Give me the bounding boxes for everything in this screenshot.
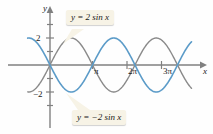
- x-axis-label: x: [203, 66, 207, 76]
- callout-bottom-tail: [66, 93, 90, 110]
- callout-2sinx: y = 2 sin x: [66, 10, 114, 25]
- y-axis-arrowhead: [47, 6, 54, 13]
- callout-tails-group: [63, 29, 90, 110]
- y-tick-label-positive-2: 2: [36, 33, 41, 43]
- x-tick-label-3pi: 3π: [163, 66, 172, 76]
- callout-neg2sinx: y = −2 sin x: [72, 110, 126, 125]
- y-tick-label-negative-2: −2: [33, 89, 43, 99]
- callout-top-tail: [63, 29, 84, 44]
- figure-sine-reflection: y = 2 sin x y = −2 sin x y x π 2π 3π 2 −…: [0, 0, 213, 134]
- y-axis-label: y: [43, 3, 47, 13]
- x-tick-label-pi: π: [94, 66, 99, 76]
- x-tick-label-2pi: 2π: [128, 66, 137, 76]
